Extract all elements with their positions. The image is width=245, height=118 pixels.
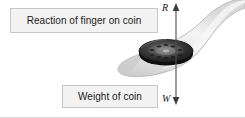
- label-weight-text: Weight of coin: [78, 92, 142, 102]
- force-symbol-weight: W: [162, 94, 170, 104]
- weight-arrow-head: [173, 97, 180, 105]
- label-reaction-of-finger-on-coin: Reaction of finger on coin: [10, 8, 158, 33]
- coin: [139, 40, 193, 66]
- label-reaction-text: Reaction of finger on coin: [27, 16, 142, 26]
- reaction-arrow-head: [173, 3, 180, 11]
- physics-force-diagram: Reaction of finger on coin Weight of coi…: [0, 0, 245, 118]
- label-weight-of-coin: Weight of coin: [62, 85, 158, 108]
- force-symbol-reaction: R: [162, 3, 168, 13]
